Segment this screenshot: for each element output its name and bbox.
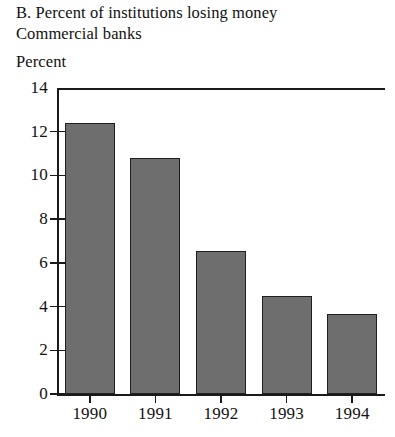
bar-1993 <box>262 296 312 394</box>
x-axis-tick-label-1993: 1993 <box>252 404 322 424</box>
x-axis-tick-mark <box>89 394 91 403</box>
x-axis-tick-mark <box>220 394 222 403</box>
y-axis-tick-label: 10 <box>2 166 48 183</box>
x-axis-tick-mark <box>351 394 353 403</box>
bar-1990 <box>65 123 115 394</box>
y-axis-tick-mark <box>50 262 66 264</box>
x-axis-tick-label-1991: 1991 <box>120 404 190 424</box>
y-axis-tick-mark <box>50 306 66 308</box>
x-axis-tick-mark <box>286 394 288 403</box>
x-axis-tick-label-1994: 1994 <box>317 404 387 424</box>
y-axis-tick-mark <box>50 175 66 177</box>
y-axis-tick-label: 12 <box>2 123 48 140</box>
x-axis-tick-label-1990: 1990 <box>55 404 125 424</box>
bar-chart-plot-area: 02468101214 19901991199219931994 <box>0 0 395 437</box>
y-axis-tick-mark <box>50 350 66 352</box>
y-axis-tick-mark <box>50 131 66 133</box>
x-axis-tick-label-1992: 1992 <box>186 404 256 424</box>
bar-1992 <box>196 251 246 394</box>
y-axis-tick-label: 2 <box>2 341 48 358</box>
y-axis-tick-label: 14 <box>2 79 48 96</box>
plot-top-frame-line <box>57 88 385 90</box>
x-axis-tick-mark <box>155 394 157 403</box>
y-axis-tick-label: 6 <box>2 254 48 271</box>
y-axis-tick-labels: 02468101214 <box>0 0 48 437</box>
y-axis-tick-label: 0 <box>2 385 48 402</box>
bar-1994 <box>327 314 377 394</box>
bar-1991 <box>130 158 180 394</box>
y-axis-tick-label: 8 <box>2 210 48 227</box>
y-axis-tick-label: 4 <box>2 298 48 315</box>
y-axis-tick-mark <box>50 393 66 395</box>
y-axis-tick-mark <box>50 218 66 220</box>
